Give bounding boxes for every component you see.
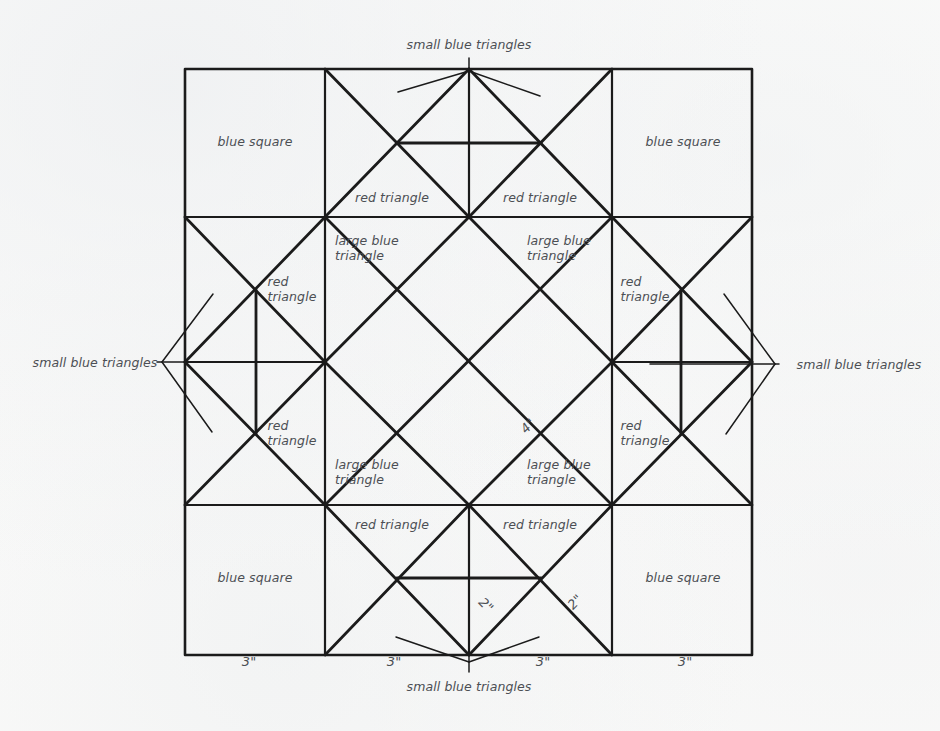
- patch-label-large-blue-triangle-top-left: large blue triangle: [335, 233, 399, 263]
- dimension-label-bottom-4: 3": [678, 654, 692, 669]
- patch-label-blue-square-top-right: blue square: [646, 134, 721, 149]
- dimension-label-bottom-1: 3": [242, 654, 256, 669]
- callout-arrow-right-head-up: [724, 294, 775, 364]
- callout-label-left: small blue triangles: [33, 355, 158, 370]
- callout-arrow-bottom-head-right: [469, 637, 539, 662]
- patch-label-red-triangle-bottom-right: red triangle: [503, 517, 577, 532]
- patch-label-red-triangle-bottom-left: red triangle: [355, 517, 429, 532]
- patch-label-blue-square-bottom-right: blue square: [646, 570, 721, 585]
- patch-label-blue-square-top-left: blue square: [218, 134, 293, 149]
- patch-label-red-triangle-top-left: red triangle: [355, 190, 429, 205]
- callout-arrow-left-head-down: [162, 362, 212, 432]
- patch-label-red-triangle-top-right: red triangle: [503, 190, 577, 205]
- patch-label-red-triangle-right-upper: red triangle: [621, 274, 670, 304]
- patch-label-large-blue-triangle-bottom-right: large blue triangle: [527, 457, 591, 487]
- callout-label-top: small blue triangles: [407, 37, 532, 52]
- callout-arrow-left-head-up: [162, 294, 213, 362]
- callout-label-bottom: small blue triangles: [407, 679, 532, 694]
- callout-arrow-bottom-head-left: [396, 637, 469, 662]
- callout-label-right: small blue triangles: [797, 357, 922, 372]
- patch-label-red-triangle-left-upper: red triangle: [268, 274, 317, 304]
- callout-arrow-top-head-right: [469, 71, 540, 96]
- diagram-page: blue square blue square blue square blue…: [0, 0, 940, 731]
- dimension-label-bottom-3: 3": [536, 654, 550, 669]
- dimension-label-bottom-2: 3": [387, 654, 401, 669]
- patch-label-blue-square-bottom-left: blue square: [218, 570, 293, 585]
- patch-label-red-triangle-left-lower: red triangle: [268, 418, 317, 448]
- callout-arrow-right-head-down: [726, 364, 775, 434]
- patch-label-red-triangle-right-lower: red triangle: [621, 418, 670, 448]
- patch-label-large-blue-triangle-top-right: large blue triangle: [527, 233, 591, 263]
- patch-label-large-blue-triangle-bottom-left: large blue triangle: [335, 457, 399, 487]
